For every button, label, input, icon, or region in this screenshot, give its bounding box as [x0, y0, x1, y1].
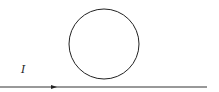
- diagram-canvas: I: [0, 0, 219, 92]
- current-label: I: [20, 63, 26, 76]
- current-direction-arrow-icon: [51, 85, 57, 89]
- circular-loop: [69, 9, 139, 79]
